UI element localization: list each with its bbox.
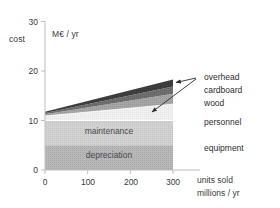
legend-item-wood: wood [204, 98, 224, 108]
x-tick-label-100: 100 [75, 177, 101, 187]
x-axis-unit: millions / yr [197, 188, 240, 198]
area-label-depreciation: depreciation [62, 150, 156, 160]
y-tick-label-10: 10 [14, 116, 38, 126]
y-axis-title: cost [9, 34, 25, 44]
x-axis-title: units sold [197, 175, 233, 185]
legend-item-equipment: equipment [204, 143, 244, 153]
chart-figure: cost M€ / yr 30 20 10 0 0 100 200 300 un… [0, 0, 280, 208]
y-axis-unit: M€ / yr [52, 29, 79, 39]
y-tick-label-30: 30 [14, 17, 38, 27]
y-tick-label-0: 0 [14, 165, 38, 175]
legend-item-personnel: personnel [204, 117, 241, 127]
leader-arrow-overhead [176, 78, 196, 83]
legend-item-cardboard: cardboard [204, 85, 242, 95]
y-tick-label-20: 20 [14, 66, 38, 76]
legend-item-overhead: overhead [204, 72, 239, 82]
x-tick-label-200: 200 [118, 177, 144, 187]
x-tick-label-0: 0 [33, 177, 57, 187]
area-label-maintenance: maintenance [62, 126, 156, 136]
x-tick-label-300: 300 [160, 177, 186, 187]
